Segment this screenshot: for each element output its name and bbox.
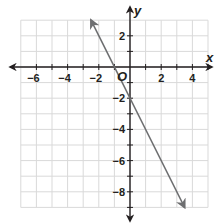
x-tick-label: 4 (189, 72, 196, 84)
tick-marks (36, 36, 208, 208)
x-tick-label: −6 (27, 72, 40, 84)
y-tick-label: −8 (112, 186, 125, 198)
x-axis-label: x (205, 50, 214, 65)
y-tick-label: −4 (112, 123, 125, 135)
y-tick-label: 2 (119, 30, 125, 42)
x-tick-label: −2 (90, 72, 103, 84)
grid (21, 20, 208, 207)
y-tick-label: −2 (112, 92, 125, 104)
y-tick-label: −6 (112, 155, 125, 167)
y-axis-label: y (133, 3, 142, 18)
coordinate-plane: −6−4−2242−2−4−6−8 x y O (0, 0, 219, 224)
x-tick-label: −4 (58, 72, 71, 84)
origin-label: O (117, 69, 127, 84)
x-tick-label: 2 (158, 72, 164, 84)
